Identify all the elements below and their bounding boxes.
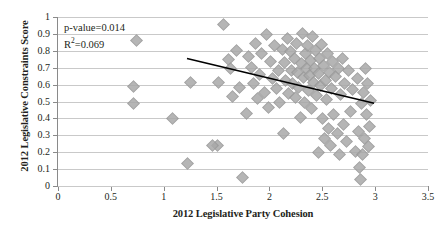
data-point-marker	[184, 76, 197, 89]
data-point-marker	[354, 174, 367, 187]
data-point-marker	[218, 18, 231, 31]
y-tick-mark	[53, 51, 57, 52]
x-tick-label: 3.5	[408, 192, 441, 202]
y-tick-label: 0.3	[24, 130, 50, 140]
y-tick-mark	[53, 118, 57, 119]
y-tick-label: 0.5	[24, 97, 50, 107]
data-point-marker	[277, 127, 290, 140]
data-point-marker	[130, 34, 143, 47]
y-tick-label: 0.4	[24, 113, 50, 123]
gridline	[58, 169, 428, 170]
statistics-annotation: p-value=0.014 R2=0.069	[64, 22, 125, 51]
data-point-marker	[127, 97, 140, 110]
y-tick-label: 0.1	[24, 164, 50, 174]
y-tick-label: 0.8	[24, 46, 50, 56]
data-point-marker	[274, 96, 287, 109]
y-tick-mark	[53, 135, 57, 136]
x-tick-label: 0.5	[91, 192, 131, 202]
scatter-plot-figure: 2012 Legislative Constraints Score 00.10…	[0, 0, 441, 232]
y-tick-mark	[53, 68, 57, 69]
x-tick-label: 0	[38, 192, 78, 202]
x-tick-label: 1	[144, 192, 184, 202]
data-point-marker	[353, 161, 366, 174]
data-point-marker	[237, 171, 250, 184]
data-point-marker	[233, 81, 246, 94]
data-point-marker	[212, 76, 225, 89]
y-tick-label: 0.7	[24, 63, 50, 73]
data-point-marker	[294, 111, 307, 124]
gridline	[58, 152, 428, 153]
y-tick-mark	[53, 169, 57, 170]
gridline	[58, 118, 428, 119]
y-tick-mark	[53, 152, 57, 153]
x-tick-label: 2	[249, 192, 289, 202]
r-squared-text: R2=0.069	[64, 35, 125, 51]
x-tick-label: 1.5	[197, 192, 237, 202]
y-tick-label: 1	[24, 12, 50, 22]
y-tick-mark	[53, 102, 57, 103]
data-point-marker	[363, 120, 376, 133]
y-tick-mark	[53, 17, 57, 18]
data-point-marker	[312, 146, 325, 159]
data-point-marker	[305, 103, 318, 116]
r-squared-label: R	[64, 38, 71, 49]
y-tick-label: 0.2	[24, 147, 50, 157]
x-tick-label: 2.5	[302, 192, 342, 202]
gridline	[58, 17, 428, 18]
data-point-marker	[333, 148, 346, 161]
data-point-marker	[364, 94, 377, 107]
y-tick-mark	[53, 186, 57, 187]
y-tick-label: 0.9	[24, 29, 50, 39]
data-point-marker	[359, 62, 372, 75]
x-tick-label: 3	[355, 192, 395, 202]
gridline	[58, 135, 428, 136]
data-point-marker	[230, 44, 243, 57]
data-point-marker	[260, 28, 273, 41]
data-point-marker	[344, 105, 357, 118]
p-value-text: p-value=0.014	[64, 22, 125, 35]
y-tick-label: 0.6	[24, 80, 50, 90]
data-point-marker	[166, 112, 179, 125]
y-tick-label: 0	[24, 181, 50, 191]
r-squared-value: =0.069	[75, 38, 105, 49]
gridline	[58, 68, 428, 69]
data-point-marker	[127, 80, 140, 93]
gridline	[58, 51, 428, 52]
data-point-marker	[340, 135, 353, 148]
y-tick-mark	[53, 34, 57, 35]
x-axis-title: 2012 Legislative Party Cohesion	[58, 208, 428, 219]
y-tick-mark	[53, 85, 57, 86]
gridline	[58, 186, 428, 187]
